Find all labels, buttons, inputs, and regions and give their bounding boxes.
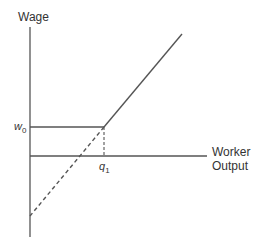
w0-subscript: 0 [22,126,26,135]
w0-symbol: w [14,120,22,132]
q1-label: q1 [99,160,110,177]
y-axis-label: Wage [18,11,49,23]
dashed-extension-line [30,127,104,216]
diagram-canvas [0,0,260,247]
x-axis-label-line1: Worker [212,146,250,158]
x-axis-label-line2: Output [212,160,248,172]
w0-label: w0 [14,120,26,137]
solid-wage-line [104,34,182,127]
q1-subscript: 1 [105,166,109,175]
